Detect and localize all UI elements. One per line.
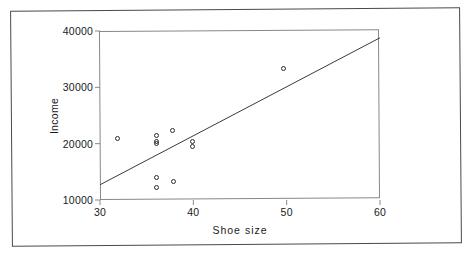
y-tick-label: 30000: [63, 81, 93, 93]
trend-line: [100, 38, 380, 185]
x-tick-label: 60: [374, 206, 386, 218]
x-tick-label: 30: [94, 206, 106, 218]
chart-page: 10000200003000040000 30405060 Shoe size …: [0, 0, 473, 259]
y-tick-label: 20000: [63, 138, 93, 150]
data-point: [154, 141, 159, 146]
data-point: [154, 133, 159, 138]
data-point: [190, 139, 195, 144]
x-tick-label: 50: [281, 206, 293, 218]
y-axis-label: Income: [48, 97, 60, 133]
y-tick-label: 40000: [63, 25, 93, 37]
plot-area: 10000200003000040000 30405060 Shoe size …: [100, 31, 380, 200]
y-tick-label: 10000: [63, 194, 93, 206]
x-tick-label: 40: [187, 206, 199, 218]
x-axis-label: Shoe size: [212, 224, 267, 236]
tick-marks: [95, 31, 380, 205]
